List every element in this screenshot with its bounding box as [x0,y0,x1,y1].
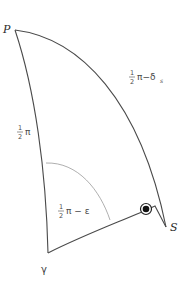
svg-text:2: 2 [130,78,134,86]
spherical-triangle-diagram: P S γ 1 2 π−δ s 1 2 π 1 2 π − ε [0,0,184,281]
vertex-label-gamma: γ [41,264,47,275]
sun-icon [141,204,152,215]
svg-text:1: 1 [18,124,22,132]
label-side-py: 1 2 π [17,124,31,141]
vertex-label-s: S [170,221,178,234]
side-p-y [15,30,48,253]
svg-text:2: 2 [18,133,22,141]
svg-text:1: 1 [59,203,63,211]
svg-text:2: 2 [59,212,63,220]
svg-text:1: 1 [130,69,134,77]
vertex-label-p: P [2,23,11,36]
svg-text:s: s [160,77,163,84]
svg-text:π: π [25,127,31,137]
label-angle-y: 1 2 π − ε [58,203,90,220]
svg-text:π − ε: π − ε [66,206,90,216]
label-side-ps: 1 2 π−δ s [129,69,163,86]
svg-text:π−δ: π−δ [137,72,156,82]
